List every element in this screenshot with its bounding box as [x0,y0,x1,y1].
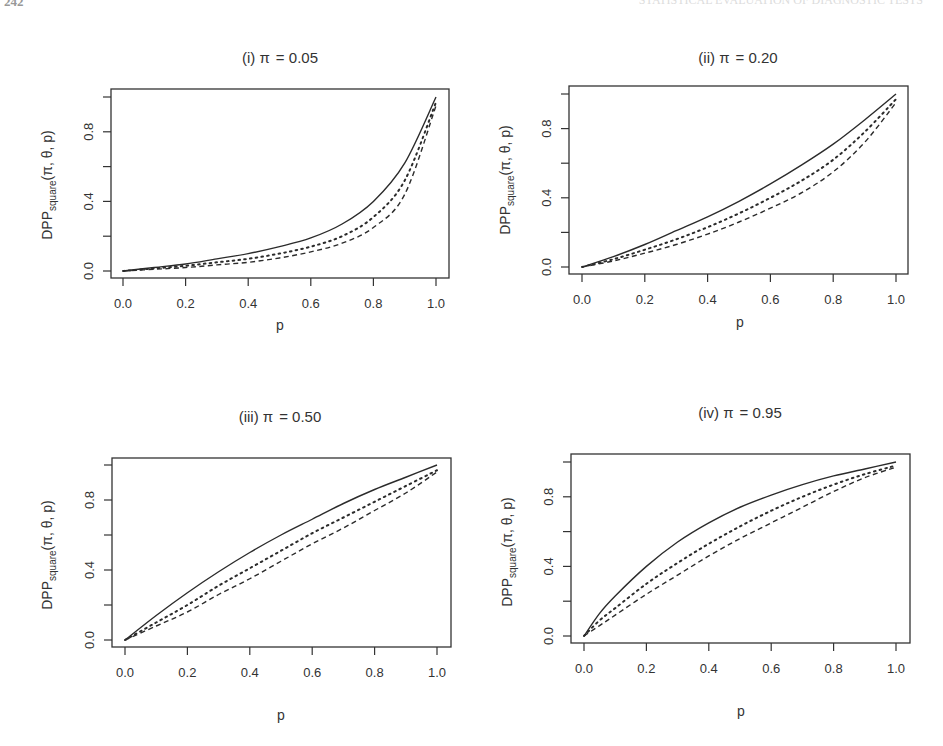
curve-dotted [125,470,437,640]
x-tick-label: 1.0 [428,665,446,680]
y-tick-label: 0.8 [82,491,97,509]
svg-text:DPPsquare(π, θ, p): DPPsquare(π, θ, p) [39,500,58,610]
x-tick-label: 0.6 [302,296,320,311]
x-tick-label: 0.2 [637,661,655,676]
curves [582,94,896,267]
y-tick-label: 0.8 [539,120,554,138]
panel-title: (iii) π= 0.50 [239,408,322,425]
x-tick-label: 0.2 [636,292,654,307]
x-tick-label: 0.8 [366,665,384,680]
y-tick-label: 0.8 [541,488,556,506]
x-tick-label: 0.4 [241,665,259,680]
curve-dotted [584,465,896,636]
curve-solid [584,462,896,636]
x-tick-label: 1.0 [887,661,905,676]
curve-solid [582,94,896,267]
x-axis-label: p [737,703,745,719]
x-tick-label: 0.8 [825,661,843,676]
x-tick-label: 0.0 [114,296,132,311]
curve-dotted [123,102,436,271]
y-tick-label: 0.8 [81,123,96,141]
x-tick-label: 0.4 [699,292,717,307]
panel-title: (ii) π= 0.20 [698,49,777,66]
x-tick-label: 0.0 [573,292,591,307]
x-tick-label: 0.6 [761,292,779,307]
x-tick-label: 0.8 [824,292,842,307]
x-tick-label: 0.0 [116,665,134,680]
y-tick-label: 0.0 [81,262,96,280]
x-tick-label: 0.4 [239,296,257,311]
x-axis-label: p [277,707,285,723]
svg-text:DPPsquare(π, θ, p): DPPsquare(π, θ, p) [499,497,518,607]
panel-title: (iv) π= 0.95 [698,404,781,421]
y-axis-label: DPPsquare(π, θ, p) [499,497,518,607]
x-tick-label: 0.8 [364,296,382,311]
svg-text:DPPsquare(π, θ, p): DPPsquare(π, θ, p) [497,125,516,235]
axes: 0.00.20.40.60.81.00.00.40.8 [541,454,910,676]
plot-frame [571,454,910,643]
y-tick-label: 0.4 [81,192,96,210]
y-axis-label: DPPsquare(π, θ, p) [39,130,58,240]
plot-frame [569,86,908,274]
curve-solid [123,97,436,271]
x-axis-label: p [736,314,744,330]
curves [123,97,436,271]
panel-ii: (ii) π= 0.20 0.00.20.40.60.81.00.00.40.8… [497,49,908,330]
x-axis-label: p [276,317,284,333]
panel-iii: (iii) π= 0.50 0.00.20.40.60.81.00.00.40.… [39,408,451,723]
curve-dotted [582,99,896,267]
y-axis-label: DPPsquare(π, θ, p) [497,125,516,235]
curve-dashed [582,103,896,267]
x-tick-label: 0.2 [178,665,196,680]
x-tick-label: 0.4 [700,661,718,676]
y-axis-label: DPPsquare(π, θ, p) [39,500,58,610]
plot-frame [111,89,449,278]
figure: (i) π= 0.05 0.00.20.40.60.81.00.00.40.8 … [0,0,943,746]
x-tick-label: 1.0 [887,292,905,307]
y-tick-label: 0.0 [541,627,556,645]
y-tick-label: 0.0 [82,631,97,649]
x-tick-label: 0.6 [762,661,780,676]
curves [125,465,437,640]
y-tick-label: 0.4 [539,189,554,207]
axes: 0.00.20.40.60.81.00.00.40.8 [539,86,908,307]
plot-frame [112,458,451,647]
y-tick-label: 0.4 [82,561,97,579]
x-tick-label: 0.0 [575,661,593,676]
panel-iv: (iv) π= 0.95 0.00.20.40.60.81.00.00.40.8… [499,404,910,719]
svg-text:DPPsquare(π, θ, p): DPPsquare(π, θ, p) [39,130,58,240]
curve-dashed [584,467,896,636]
panel-i: (i) π= 0.05 0.00.20.40.60.81.00.00.40.8 … [39,49,449,333]
y-tick-label: 0.4 [541,557,556,575]
panel-title: (i) π= 0.05 [242,49,318,66]
x-tick-label: 1.0 [427,296,445,311]
x-tick-label: 0.6 [303,665,321,680]
y-tick-label: 0.0 [539,258,554,276]
curves [584,462,896,636]
axes: 0.00.20.40.60.81.00.00.40.8 [81,89,449,311]
x-tick-label: 0.2 [177,296,195,311]
